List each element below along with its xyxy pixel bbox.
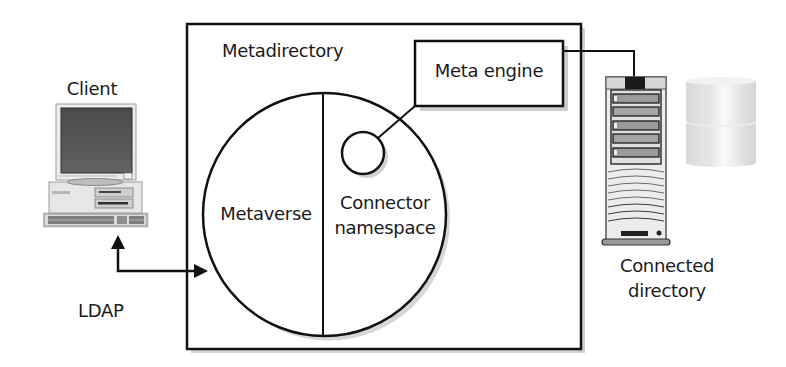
ldap-label: LDAP: [78, 300, 124, 322]
metadirectory-label: Metadirectory: [222, 40, 343, 62]
connected-directory-line2: directory: [612, 278, 722, 303]
connector-circle: [342, 132, 384, 174]
drive-bays: [613, 94, 659, 157]
client-label: Client: [52, 78, 132, 100]
meta-engine-label: Meta engine: [415, 60, 563, 82]
connected-directory-line1: Connected: [612, 253, 722, 278]
connected-directory-label: Connected directory: [612, 253, 722, 303]
metaverse-label: Metaverse: [212, 203, 320, 225]
connector-namespace-label: Connector namespace: [326, 190, 444, 240]
connector-namespace-line1: Connector: [326, 190, 444, 215]
desktop-computer-icon: [43, 104, 149, 228]
database-cylinder-icon: [686, 77, 756, 167]
connector-namespace-line2: namespace: [326, 215, 444, 240]
server-tower-icon: [602, 77, 670, 245]
arrowhead-up-icon: [111, 235, 125, 249]
